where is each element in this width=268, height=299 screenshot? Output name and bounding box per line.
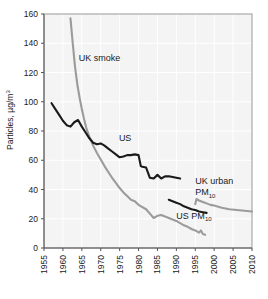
x-tick-label: 1965 [77,255,87,274]
y-axis-title: Particles, µg/m3 [5,90,15,150]
annotation-us-pm-text: US PM [176,211,205,221]
y-tick-label: 80 [29,126,39,136]
annotation-uk-urban: UK urban [195,176,233,186]
x-tick-label: 1985 [152,255,162,274]
y-tick-label: 140 [24,38,38,48]
x-tick-label: 1975 [115,255,125,274]
y-tick-label: 100 [24,97,38,107]
y-tick-label: 0 [33,243,38,253]
x-tick-label: 2000 [209,255,219,274]
svg-text:Particles, µg/m3: Particles, µg/m3 [5,90,15,150]
x-tick-label: 1960 [58,255,68,274]
y-tick-label: 40 [29,185,39,195]
x-axis-ticks: 1955196019651970197519801985199019952000… [39,248,257,274]
x-tick-label: 1955 [39,255,49,274]
y-tick-label: 20 [29,214,39,224]
chart-container: 020406080100120140160 195519601965197019… [0,0,268,299]
x-tick-label: 1970 [96,255,106,274]
annotation-us: US [119,133,132,143]
annotation-us-pm-subscript: 10 [205,216,212,222]
y-tick-label: 160 [24,9,38,19]
annotation-uk-smoke: UK smoke [79,53,121,63]
x-tick-label: 1995 [190,255,200,274]
y-tick-label: 60 [29,155,39,165]
x-tick-label: 2010 [247,255,257,274]
x-tick-label: 1990 [171,255,181,274]
x-tick-label: 1980 [134,255,144,274]
particles-line-chart: 020406080100120140160 195519601965197019… [0,0,268,299]
x-tick-label: 2005 [228,255,238,274]
y-axis-title-exponent: 3 [5,90,11,94]
y-axis-title-text: Particles, µg/m [5,94,15,150]
annotation-pm-text: PM [195,187,209,197]
annotation-pm-subscript: 10 [209,193,216,199]
y-axis-ticks: 020406080100120140160 [24,9,44,253]
y-tick-label: 120 [24,68,38,78]
